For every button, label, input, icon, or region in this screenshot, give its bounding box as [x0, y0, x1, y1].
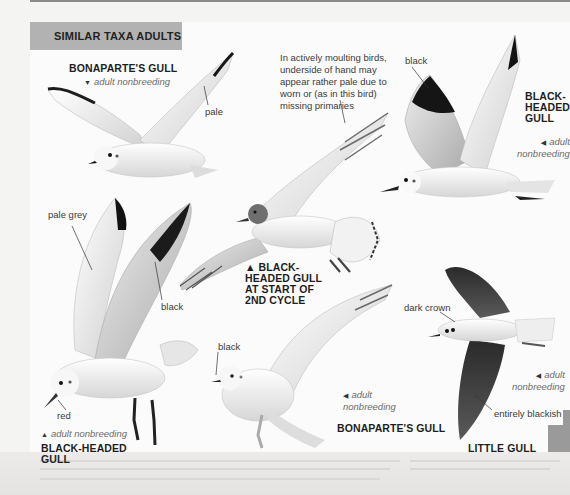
callout-pale-grey: pale grey: [48, 209, 87, 220]
callout-black-bonaparte-bottom: black: [218, 341, 240, 352]
callout-black-landing: black: [161, 301, 183, 312]
arrow-left-icon: ◀: [343, 392, 348, 399]
species-label-black-headed-2nd-cycle: ▲ BLACK- HEADED GULL AT START OF 2ND CYC…: [245, 262, 322, 306]
arrow-left-icon: ◀: [541, 139, 546, 146]
age-label-black-headed-top-right: ◀adult nonbreeding: [517, 136, 570, 159]
callout-pale: pale: [205, 106, 223, 117]
age-label-black-headed-landing: ▲adult nonbreeding: [41, 428, 127, 440]
bird-black-headed-landing: [44, 198, 198, 445]
arrow-down-icon: ▼: [84, 79, 91, 86]
callout-dark-crown: dark crown: [404, 302, 450, 313]
age-label-bonaparte-top: ▼adult nonbreeding: [84, 76, 170, 88]
age-label-bonaparte-bottom: ◀adult nonbreeding: [343, 389, 396, 412]
age-label-little-gull: ◀adult nonbreeding: [512, 369, 565, 392]
species-label-black-headed-top-right: BLACK- HEADED GULL: [525, 91, 570, 124]
arrow-up-icon: ▲: [41, 431, 48, 438]
arrow-left-icon: ◀: [536, 372, 541, 379]
callout-entirely-blackish: entirely blackish: [494, 408, 562, 419]
callout-black-top-right: black: [405, 55, 427, 66]
species-label-little-gull: LITTLE GULL: [468, 443, 536, 454]
page-corner-tab-edge: [563, 410, 570, 430]
species-label-bonaparte-bottom: BONAPARTE'S GULL: [337, 423, 445, 434]
callout-red: red: [57, 410, 71, 421]
species-label-black-headed-landing: BLACK-HEADED GULL: [41, 443, 127, 465]
species-label-bonaparte-top: BONAPARTE'S GULL: [69, 63, 177, 74]
